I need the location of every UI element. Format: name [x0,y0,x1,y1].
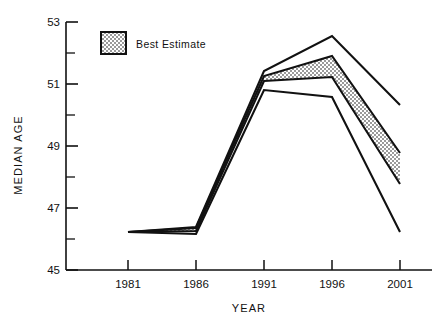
legend-swatch-best-estimate [101,32,126,54]
y-axis-major-ticks [66,22,78,270]
median-age-projection-chart: 53 51 49 47 45 MEDIAN AGE 1981 1986 1991… [0,0,439,327]
series-line-highest [128,36,400,232]
y-tick-label: 49 [47,140,60,152]
x-tick-label: 1996 [319,278,345,290]
y-tick-label: 53 [47,16,60,28]
y-axis-title: MEDIAN AGE [12,115,24,194]
x-tick-label: 1981 [115,278,141,290]
x-tick-label: 2001 [387,278,413,290]
x-tick-label: 1991 [251,278,277,290]
y-tick-label: 45 [47,264,60,276]
y-tick-label: 51 [47,78,60,90]
x-axis-title: YEAR [232,302,266,314]
chart-legend: Best Estimate [101,32,206,54]
chart-container: 53 51 49 47 45 MEDIAN AGE 1981 1986 1991… [0,0,439,327]
x-axis-tick-labels: 1981 1986 1991 1996 2001 [115,278,413,290]
legend-label-best-estimate: Best Estimate [136,38,206,50]
x-axis-ticks [128,260,400,270]
x-tick-label: 1986 [183,278,209,290]
y-axis-tick-labels: 53 51 49 47 45 [47,16,60,276]
y-tick-label: 47 [47,202,60,214]
